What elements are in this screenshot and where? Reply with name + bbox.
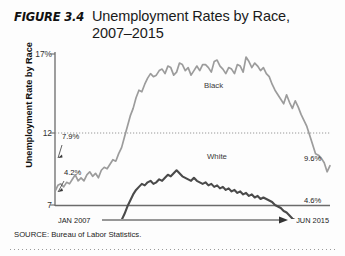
figure-number: FIGURE 3.4 — [0, 8, 92, 24]
source-note: SOURCE: Bureau of Labor Statistics. — [14, 230, 141, 239]
series-label-white: White — [207, 152, 227, 161]
x-axis-arrow-svg — [0, 214, 345, 230]
annotation-white-end: 4.6% — [304, 196, 321, 205]
line-chart-svg — [0, 44, 345, 219]
figure-title: Unemployment Rates by Race, 2007–2015 — [92, 8, 302, 42]
x-axis: JAN 2007 JUN 2015 — [0, 214, 345, 230]
annotation-black-start: 7.9% — [62, 132, 79, 141]
perforation-line — [10, 249, 335, 250]
series-line-white — [55, 170, 330, 219]
annotation-white-start: 4.2% — [64, 168, 81, 177]
annotation-black-end: 9.6% — [304, 154, 321, 163]
figure-header: FIGURE 3.4 Unemployment Rates by Race, 2… — [0, 8, 345, 42]
chart-plot-area: Unemployment Rate by Race 17% 12 7 7.9 — [0, 44, 345, 219]
figure-page: FIGURE 3.4 Unemployment Rates by Race, 2… — [0, 0, 345, 256]
series-label-black: Black — [204, 81, 223, 90]
series-line-black — [55, 57, 330, 191]
x-axis-arrowhead — [279, 216, 288, 223]
